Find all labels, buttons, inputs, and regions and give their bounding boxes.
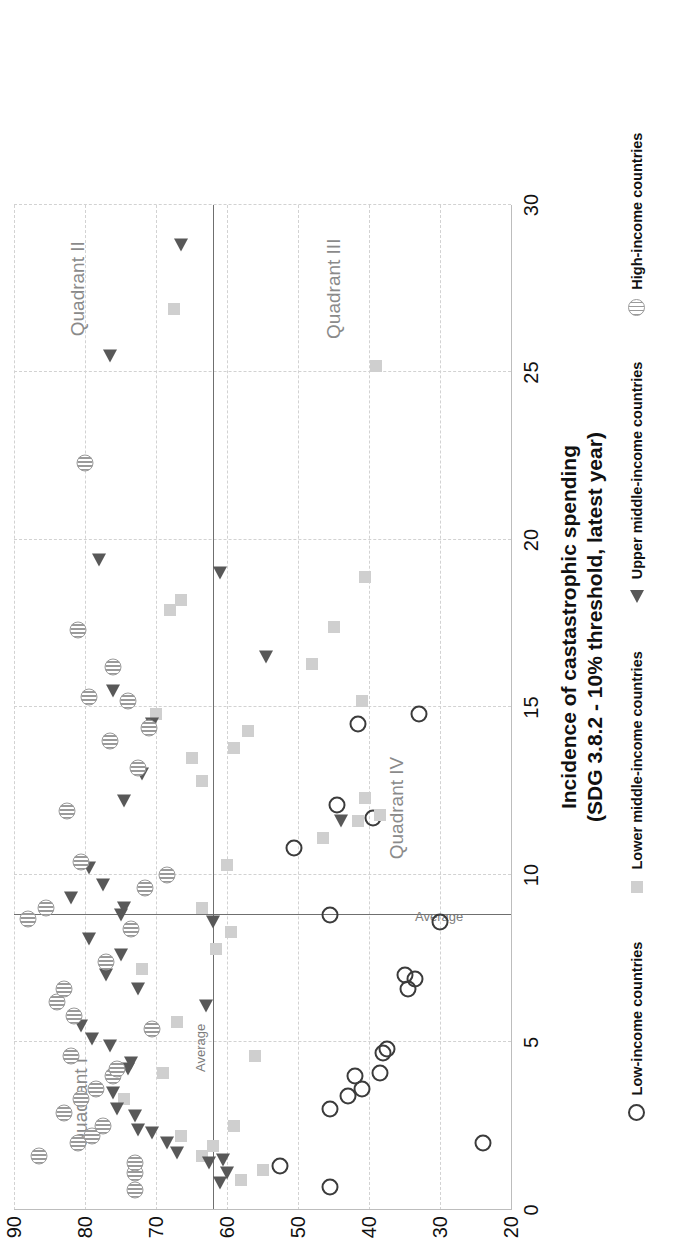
average-line-label-y: Average xyxy=(193,1024,208,1072)
data-point xyxy=(213,567,227,580)
data-point xyxy=(321,907,338,924)
data-point xyxy=(210,943,222,955)
data-point xyxy=(235,1174,247,1186)
data-point xyxy=(131,1123,145,1136)
y-tick-label-70: 70 xyxy=(145,1216,168,1250)
data-point xyxy=(124,1056,138,1069)
quadrant-label-quadrant-iv: Quadrant IV xyxy=(386,757,408,859)
data-point xyxy=(306,658,318,670)
data-point xyxy=(370,360,382,372)
data-point xyxy=(130,759,147,776)
data-point xyxy=(103,349,117,362)
gridline-x-20 xyxy=(14,539,511,540)
legend-item-label: High-income countries xyxy=(629,133,645,290)
data-point xyxy=(128,1110,142,1123)
data-point xyxy=(186,752,198,764)
chart-figure-rotated: AverageAverageQuadrant IQuadrant IIQuadr… xyxy=(0,0,677,1254)
y-tick-label-20: 20 xyxy=(500,1216,523,1250)
data-point xyxy=(220,1167,234,1180)
legend-item[interactable]: High-income countries xyxy=(628,133,645,316)
legend-item-label: Lower middle-income countries xyxy=(629,651,645,869)
data-point xyxy=(202,1157,216,1170)
data-point xyxy=(55,980,72,997)
data-point xyxy=(207,1140,219,1152)
data-point xyxy=(249,1050,261,1062)
data-point xyxy=(359,571,371,583)
data-point xyxy=(114,949,128,962)
gridline-x-15 xyxy=(14,707,511,708)
data-point xyxy=(334,815,348,828)
data-point xyxy=(108,1061,125,1078)
legend-item-label: Low-income countries xyxy=(629,942,645,1096)
data-point xyxy=(321,1101,338,1118)
y-axis-line xyxy=(14,1209,511,1210)
legend-item[interactable]: Lower middle-income countries xyxy=(628,651,645,895)
data-point xyxy=(30,1148,47,1165)
data-point xyxy=(196,775,208,787)
data-point xyxy=(20,910,37,927)
triangle-icon xyxy=(628,588,645,605)
average-line-horizontal xyxy=(213,205,214,1210)
data-point xyxy=(378,1041,395,1058)
data-point xyxy=(432,913,449,930)
gridline-y-90 xyxy=(14,205,15,1210)
data-point xyxy=(145,1126,159,1139)
x-axis-line xyxy=(511,205,512,1210)
data-point xyxy=(98,954,115,971)
chart-legend: Low-income countriesLower middle-income … xyxy=(628,0,645,1254)
data-point xyxy=(136,963,148,975)
data-point xyxy=(356,695,368,707)
data-point xyxy=(55,1104,72,1121)
data-point xyxy=(328,621,340,633)
data-point xyxy=(105,659,122,676)
data-point xyxy=(346,1068,363,1085)
data-point xyxy=(158,867,175,884)
y-tick-label-60: 60 xyxy=(216,1216,239,1250)
plot-area: AverageAverageQuadrant IQuadrant IIQuadr… xyxy=(14,205,511,1210)
data-point xyxy=(225,926,237,938)
data-point xyxy=(144,1021,161,1038)
data-point xyxy=(96,879,110,892)
data-point xyxy=(140,719,157,736)
chart-figure: AverageAverageQuadrant IQuadrant IIQuadr… xyxy=(0,0,677,1254)
x-tick-label-30: 30 xyxy=(520,194,543,216)
gridline-y-60 xyxy=(227,205,228,1210)
legend-item[interactable]: Upper middle-income countries xyxy=(628,362,645,606)
data-point xyxy=(62,1047,79,1064)
data-point xyxy=(257,1164,269,1176)
data-point xyxy=(117,795,131,808)
data-point xyxy=(175,1130,187,1142)
data-point xyxy=(66,1007,83,1024)
y-tick-label-80: 80 xyxy=(74,1216,97,1250)
quadrant-label-quadrant-iii: Quadrant III xyxy=(323,239,345,339)
data-point xyxy=(352,815,364,827)
data-point xyxy=(82,932,96,945)
gridline-x-30 xyxy=(14,204,511,205)
data-point xyxy=(329,796,346,813)
data-point xyxy=(92,554,106,567)
data-point xyxy=(259,651,273,664)
gridline-y-50 xyxy=(298,205,299,1210)
y-tick-label-40: 40 xyxy=(358,1216,381,1250)
data-point xyxy=(474,1135,491,1152)
x-tick-label-25: 25 xyxy=(520,361,543,383)
chart-title-line2: (SDG 3.8.2 - 10% threshold, latest year) xyxy=(582,0,608,1254)
data-point xyxy=(126,1155,143,1172)
legend-item[interactable]: Low-income countries xyxy=(628,942,645,1122)
data-point xyxy=(242,725,254,737)
data-point xyxy=(37,900,54,917)
data-point xyxy=(69,622,86,639)
data-point xyxy=(396,967,413,984)
data-point xyxy=(286,840,303,857)
x-tick-label-5: 5 xyxy=(520,1037,543,1048)
data-point xyxy=(174,239,188,252)
data-point xyxy=(64,892,78,905)
data-point xyxy=(175,594,187,606)
x-tick-label-15: 15 xyxy=(520,696,543,718)
chart-title-line1: Incidence of castastrophic spending xyxy=(556,0,582,1254)
y-tick-label-50: 50 xyxy=(287,1216,310,1250)
data-point xyxy=(87,1081,104,1098)
data-point xyxy=(374,809,386,821)
data-point xyxy=(80,689,97,706)
data-point xyxy=(228,742,240,754)
